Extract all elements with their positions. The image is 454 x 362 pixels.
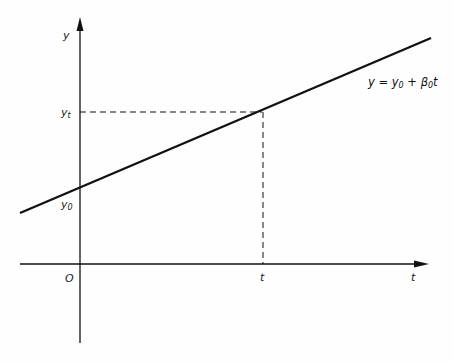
t-tick-label: t — [260, 271, 265, 284]
y-axis-arrowhead-icon — [77, 17, 84, 31]
yt-label: yt — [60, 106, 72, 120]
origin-label: O — [65, 272, 74, 285]
y0-label: y0 — [60, 198, 73, 212]
x-axis — [20, 261, 429, 268]
y-axis — [77, 17, 84, 343]
linear-growth-diagram: y yt y0 O t t y = y0 + β0t — [0, 0, 454, 362]
x-axis-label: t — [411, 271, 416, 284]
x-axis-arrowhead-icon — [414, 261, 429, 268]
y-axis-label: y — [62, 29, 70, 42]
diagram-canvas: y yt y0 O t t y = y0 + β0t — [0, 0, 454, 362]
line-equation: y = y0 + β0t — [367, 75, 438, 90]
trend-line — [20, 38, 431, 213]
